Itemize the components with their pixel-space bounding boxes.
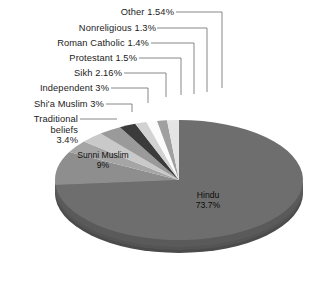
inner-label-sunni-muslim-name: Sunni Muslim	[61, 150, 145, 160]
pie-chart-graphic	[0, 0, 323, 302]
callout-nonreligious: Nonreligious 1.3%	[79, 23, 156, 34]
pie-chart: Other 1.54% Nonreligious 1.3% Roman Cath…	[0, 0, 323, 302]
callout-other: Other 1.54%	[121, 7, 174, 18]
callout-traditional-beliefs-line3: 3.4%	[4, 135, 78, 146]
leader-line-sikh	[124, 73, 166, 97]
callout-traditional-beliefs-line2: beliefs	[4, 125, 78, 136]
callout-traditional-beliefs-line1: Traditional	[4, 114, 78, 125]
leader-line-other	[176, 12, 222, 88]
callout-independent: Independent 3%	[40, 83, 109, 94]
leader-line-shia-muslim	[106, 104, 132, 112]
inner-label-hindu: Hindu 73.7%	[178, 190, 238, 210]
leader-line-protestant	[139, 58, 181, 95]
inner-label-hindu-value: 73.7%	[178, 200, 238, 210]
inner-label-sunni-muslim-value: 9%	[61, 160, 145, 170]
leader-line-independent	[111, 88, 148, 103]
callout-sikh: Sikh 2.16%	[74, 68, 122, 79]
inner-label-hindu-name: Hindu	[178, 190, 238, 200]
callout-roman-catholic: Roman Catholic 1.4%	[57, 38, 149, 49]
callout-shia-muslim: Shi'a Muslim 3%	[34, 99, 104, 110]
callout-traditional-beliefs: Traditional beliefs 3.4%	[4, 114, 78, 146]
inner-label-sunni-muslim: Sunni Muslim 9%	[61, 150, 145, 170]
leader-line-roman-catholic	[151, 43, 194, 94]
pie-slices	[55, 120, 303, 240]
callout-protestant: Protestant 1.5%	[69, 53, 137, 64]
leader-line-nonreligious	[157, 28, 207, 92]
